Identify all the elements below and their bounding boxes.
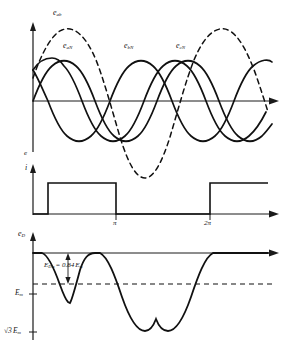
current-pulse-curve	[33, 183, 268, 214]
annotation-EDm: EDm= 0.84Em	[44, 262, 83, 269]
curve-label-e-cN: ecN	[176, 42, 185, 51]
curve-label-e-bN-sub: bN	[128, 45, 134, 50]
top-yaxis-label: e	[24, 150, 27, 157]
ylevel-label-sqrt3Em-prefix: √3	[4, 326, 12, 335]
curve-label-e-cN-sub: cN	[180, 45, 186, 50]
curve-label-e-ab-sub: ab	[57, 12, 62, 17]
curve-label-e-aN: eaN	[63, 42, 72, 51]
bottom-yaxis-label: eD	[18, 230, 25, 239]
annotation-EDm-equals: = 0.84	[56, 261, 75, 269]
waveform-diagram	[0, 0, 295, 352]
bottom-yaxis-label-sub: D	[22, 233, 26, 238]
annotation-EDm-sub: Dm	[48, 264, 54, 269]
curve-label-e-bN: ebN	[124, 42, 133, 51]
middle-yaxis-label: i	[25, 164, 27, 172]
ylevel-label-sqrt3Em: √3Em	[4, 327, 21, 335]
annotation-EDm-ref-sub: m	[80, 264, 83, 269]
ylevel-label-Em: Em	[15, 289, 23, 297]
curve-label-e-ab: eab	[53, 9, 62, 18]
ylevel-label-sqrt3Em-sub: m	[17, 330, 20, 335]
xtick-label-pi: π	[113, 220, 117, 227]
xtick-label-2pi: 2π	[204, 220, 211, 227]
curve-label-e-aN-sub: aN	[67, 45, 73, 50]
middle-panel-axes	[30, 164, 279, 220]
phase-voltage-curves	[33, 58, 272, 141]
pulse-train	[33, 183, 268, 214]
ylevel-label-Em-sub: m	[20, 292, 23, 297]
figure-root: e eab eaN ebN ecN i π 2π eD EDm= 0.84Em …	[0, 0, 295, 352]
